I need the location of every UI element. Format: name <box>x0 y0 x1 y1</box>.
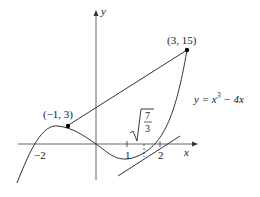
tick-label-one: 1 <box>125 149 131 161</box>
point-label-neg1-3: (−1, 3) <box>43 108 73 121</box>
function-label: y = x3 − 4x <box>193 91 244 105</box>
sqrt-seven-thirds-label: 7 3 <box>130 109 154 141</box>
radicand-numerator: 7 <box>145 110 150 121</box>
radical-sign-icon <box>130 109 154 141</box>
point-3-15 <box>185 48 189 52</box>
y-axis-label: y <box>100 5 106 17</box>
point-label-3-15: (3, 15) <box>167 34 197 47</box>
tick-label-neg2: −2 <box>34 149 46 161</box>
tick-label-two: 2 <box>158 149 164 161</box>
x-axis-arrow-icon <box>192 142 198 147</box>
secant-line <box>67 50 187 126</box>
radicand-denominator: 3 <box>145 123 150 134</box>
y-axis-arrow-icon <box>94 10 99 16</box>
mean-value-diagram: y x (−1, 3) (3, 15) −2 1 2 y = x3 − 4x 7… <box>0 0 260 197</box>
x-axis-label: x <box>183 146 189 158</box>
point-neg1-3 <box>66 124 70 128</box>
